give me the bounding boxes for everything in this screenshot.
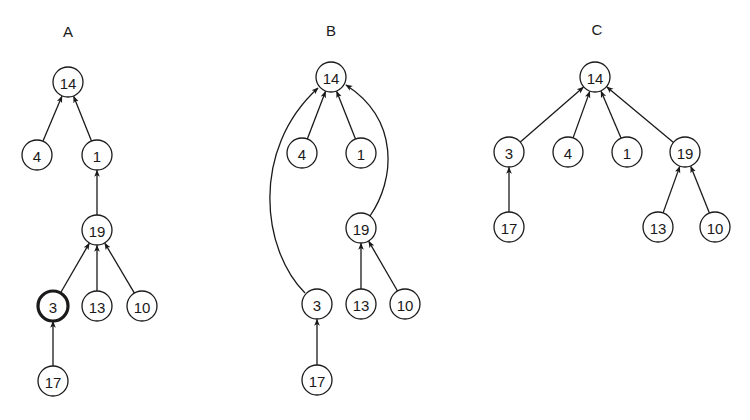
node-label: 14 — [587, 70, 604, 87]
panel-b: 1441193131017B — [270, 22, 420, 395]
node-1: 1 — [346, 138, 376, 168]
edge-4-to-14 — [573, 92, 590, 138]
edge-13-to-19 — [663, 167, 680, 213]
panels: 1441193131017A1441193131017B143411917131… — [22, 21, 730, 396]
edge-4-to-14 — [307, 92, 325, 140]
panel-label: C — [592, 21, 603, 38]
node-10: 10 — [127, 291, 157, 321]
node-13: 13 — [82, 291, 112, 321]
node-label: 10 — [134, 299, 151, 316]
edge-1-to-14 — [601, 91, 621, 138]
node-label: 4 — [298, 146, 306, 163]
edge-3-to-14 — [520, 87, 583, 142]
node-3: 3 — [38, 291, 68, 321]
node-label: 13 — [650, 220, 667, 237]
node-10: 10 — [390, 289, 420, 319]
node-19: 19 — [670, 137, 700, 167]
edge-1-to-14 — [337, 91, 356, 139]
node-17: 17 — [302, 365, 332, 395]
node-label: 13 — [89, 299, 106, 316]
node-label: 13 — [353, 297, 370, 314]
panel-label: A — [63, 23, 73, 40]
node-14: 14 — [316, 62, 346, 92]
node-3: 3 — [302, 289, 332, 319]
edge-19-to-14 — [607, 87, 674, 142]
node-1: 1 — [612, 137, 642, 167]
edge-4-to-14 — [43, 96, 62, 141]
node-label: 3 — [49, 299, 57, 316]
node-3: 3 — [494, 137, 524, 167]
edge-3-to-19 — [61, 243, 90, 293]
panel-a: 1441193131017A — [22, 23, 157, 396]
node-label: 1 — [623, 145, 631, 162]
node-label: 4 — [33, 148, 41, 165]
node-14: 14 — [580, 62, 610, 92]
node-label: 1 — [357, 146, 365, 163]
node-label: 10 — [707, 220, 724, 237]
node-14: 14 — [53, 67, 83, 97]
edge-3-to-14 — [270, 88, 318, 293]
node-13: 13 — [643, 212, 673, 242]
edge-10-to-19 — [691, 166, 710, 213]
node-label: 19 — [89, 223, 106, 240]
node-label: 17 — [501, 220, 518, 237]
node-label: 17 — [45, 374, 62, 391]
edge-1-to-14 — [74, 96, 92, 141]
node-label: 10 — [397, 297, 414, 314]
node-4: 4 — [22, 140, 52, 170]
node-label: 1 — [93, 148, 101, 165]
node-label: 19 — [353, 221, 370, 238]
node-4: 4 — [287, 138, 317, 168]
node-4: 4 — [553, 137, 583, 167]
edge-10-to-19 — [369, 241, 398, 291]
node-label: 19 — [677, 145, 694, 162]
node-19: 19 — [82, 215, 112, 245]
node-label: 14 — [323, 70, 340, 87]
node-label: 3 — [313, 297, 321, 314]
node-label: 3 — [505, 145, 513, 162]
node-label: 17 — [309, 373, 326, 390]
node-17: 17 — [494, 212, 524, 242]
node-13: 13 — [346, 289, 376, 319]
node-17: 17 — [38, 366, 68, 396]
edges — [270, 85, 398, 365]
union-find-diagram: 1441193131017A1441193131017B143411917131… — [0, 0, 750, 420]
node-label: 4 — [564, 145, 572, 162]
node-10: 10 — [700, 212, 730, 242]
panel-label: B — [326, 22, 336, 39]
panel-c: 1434119171310C — [494, 21, 730, 242]
edge-10-to-19 — [105, 243, 134, 293]
node-1: 1 — [82, 140, 112, 170]
node-label: 14 — [60, 75, 77, 92]
node-19: 19 — [346, 213, 376, 243]
